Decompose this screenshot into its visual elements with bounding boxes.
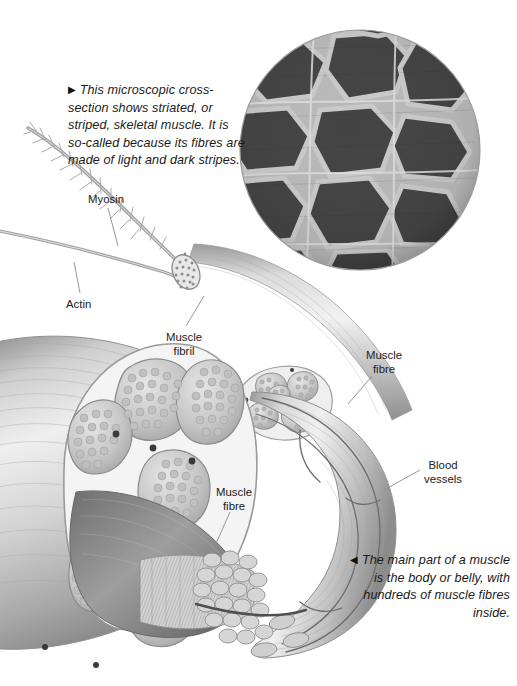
actin-filament <box>0 230 186 281</box>
label-muscle-fibre-bottom-left-line1: Muscle <box>216 485 252 499</box>
caption-top-text: This microscopic cross-section shows str… <box>68 83 245 167</box>
label-actin: Actin <box>66 297 91 311</box>
label-myosin-line1: Myosin <box>88 192 124 206</box>
caption-bottom-text: The main part of a muscle is the body or… <box>362 553 510 620</box>
label-muscle-fibril-line1: Muscle <box>166 330 202 344</box>
label-actin-line1: Actin <box>66 297 91 311</box>
leader-blood-vessels <box>384 470 420 490</box>
caption-top-marker: ▶ <box>68 81 76 99</box>
label-muscle-fibril-line2: fibril <box>166 344 202 358</box>
leader-muscle-fibre-top-right <box>348 376 372 404</box>
leader-myosin <box>108 208 118 246</box>
leader-actin <box>74 262 80 293</box>
illustration-page: ▶ This microscopic cross-section shows s… <box>0 0 517 686</box>
label-muscle-fibre-top-right: Muscle fibre <box>366 348 402 376</box>
label-muscle-fibre-bottom-left: Muscle fibre <box>216 485 252 513</box>
label-muscle-fibre-bottom-left-line2: fibre <box>216 499 252 513</box>
caption-bottom: ◀ The main part of a muscle is the body … <box>338 552 510 622</box>
label-blood-vessels-line1: Blood <box>424 458 462 472</box>
label-muscle-fibre-top-right-line1: Muscle <box>366 348 402 362</box>
label-muscle-fibril: Muscle fibril <box>166 330 202 358</box>
label-myosin: Myosin <box>88 192 124 206</box>
label-blood-vessels: Blood vessels <box>424 458 462 486</box>
caption-top: ▶ This microscopic cross-section shows s… <box>68 82 246 170</box>
label-blood-vessels-line2: vessels <box>424 472 462 486</box>
label-muscle-fibre-top-right-line2: fibre <box>366 362 402 376</box>
leader-muscle-fibril <box>186 296 204 326</box>
caption-bottom-marker: ◀ <box>350 551 358 569</box>
